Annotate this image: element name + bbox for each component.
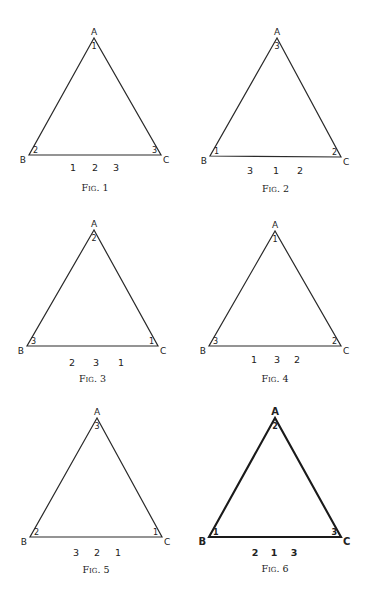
sequence-number: 1 bbox=[118, 357, 124, 368]
triangle-abc bbox=[210, 38, 341, 157]
vertex-label-c: C bbox=[160, 346, 166, 356]
triangle-figures-diagram: ABC123123Fig. 1ABC312312Fig. 2ABC231231F… bbox=[0, 0, 366, 603]
angle-number-a: 3 bbox=[274, 42, 279, 51]
sequence-number: 2 bbox=[92, 162, 98, 173]
vertex-label-c: C bbox=[163, 155, 169, 165]
angle-number-c: 2 bbox=[332, 337, 337, 346]
vertex-label-b: B bbox=[21, 537, 27, 547]
angle-number-c: 3 bbox=[152, 146, 157, 155]
angle-number-c: 2 bbox=[332, 148, 337, 157]
angle-number-c: 3 bbox=[331, 528, 337, 537]
vertex-label-a: A bbox=[91, 27, 98, 37]
sequence-number: 3 bbox=[93, 357, 99, 368]
figure-6: ABC213213Fig. 6 bbox=[198, 406, 350, 574]
angle-number-b: 2 bbox=[34, 528, 39, 537]
sequence-number: 1 bbox=[70, 162, 76, 173]
figure-4: ABC132132Fig. 4 bbox=[200, 220, 349, 384]
triangle-abc bbox=[29, 38, 161, 155]
angle-number-b: 2 bbox=[33, 146, 38, 155]
angle-number-b: 3 bbox=[213, 337, 218, 346]
angle-number-b: 1 bbox=[214, 147, 219, 156]
sequence-number: 3 bbox=[113, 162, 119, 173]
sequence-number: 2 bbox=[294, 354, 300, 365]
sequence-number: 1 bbox=[251, 354, 257, 365]
angle-number-c: 1 bbox=[149, 337, 154, 346]
sequence-number: 3 bbox=[73, 547, 79, 558]
sequence-number: 1 bbox=[273, 165, 279, 176]
triangle-abc bbox=[27, 230, 158, 346]
vertex-label-b: B bbox=[20, 155, 26, 165]
figure-caption: Fig. 3 bbox=[79, 373, 106, 384]
angle-number-a: 2 bbox=[272, 422, 278, 431]
angle-number-a: 1 bbox=[272, 235, 277, 244]
figure-caption: Fig. 5 bbox=[82, 564, 109, 575]
triangle-abc bbox=[209, 418, 341, 537]
vertex-label-b: B bbox=[18, 346, 24, 356]
angle-number-c: 1 bbox=[153, 528, 158, 537]
angle-number-b: 1 bbox=[213, 528, 219, 537]
vertex-label-b: B bbox=[201, 156, 207, 166]
vertex-label-b: B bbox=[200, 346, 206, 356]
figure-1: ABC123123Fig. 1 bbox=[20, 27, 169, 193]
angle-number-a: 1 bbox=[91, 42, 96, 51]
triangle-abc bbox=[30, 418, 162, 537]
sequence-number: 3 bbox=[291, 547, 298, 558]
sequence-number: 2 bbox=[297, 165, 303, 176]
vertex-label-b: B bbox=[198, 536, 206, 547]
sequence-number: 1 bbox=[271, 547, 278, 558]
figure-2: ABC312312Fig. 2 bbox=[201, 27, 349, 194]
angle-number-a: 3 bbox=[94, 422, 99, 431]
sequence-number: 1 bbox=[115, 547, 121, 558]
sequence-number: 3 bbox=[247, 165, 253, 176]
vertex-label-a: A bbox=[274, 27, 281, 37]
figure-5: ABC321321Fig. 5 bbox=[21, 407, 170, 575]
sequence-number: 3 bbox=[274, 354, 280, 365]
triangle-abc bbox=[209, 231, 341, 346]
vertex-label-c: C bbox=[343, 346, 349, 356]
vertex-label-a: A bbox=[91, 219, 98, 229]
vertex-label-c: C bbox=[164, 537, 170, 547]
sequence-number: 2 bbox=[94, 547, 100, 558]
figure-caption: Fig. 2 bbox=[262, 183, 289, 194]
figure-caption: Fig. 6 bbox=[261, 563, 288, 574]
vertex-label-a: A bbox=[272, 220, 279, 230]
figure-caption: Fig. 4 bbox=[261, 373, 288, 384]
vertex-label-a: A bbox=[94, 407, 101, 417]
vertex-label-c: C bbox=[343, 536, 350, 547]
sequence-number: 2 bbox=[69, 357, 75, 368]
figure-3: ABC231231Fig. 3 bbox=[18, 219, 166, 384]
figure-caption: Fig. 1 bbox=[81, 182, 108, 193]
vertex-label-c: C bbox=[343, 157, 349, 167]
angle-number-a: 2 bbox=[91, 234, 96, 243]
vertex-label-a: A bbox=[271, 406, 279, 417]
sequence-number: 2 bbox=[252, 547, 259, 558]
angle-number-b: 3 bbox=[31, 337, 36, 346]
